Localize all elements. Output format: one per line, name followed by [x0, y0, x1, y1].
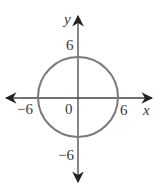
x-axis-label: x: [142, 102, 150, 118]
circle-diagram: y 6 −6 0 6 x −6: [0, 0, 160, 185]
x-pos-tick-label: 6: [120, 102, 128, 118]
x-neg-tick-label: −6: [17, 101, 33, 117]
y-pos-tick-label: 6: [66, 37, 74, 53]
y-axis-label: y: [62, 11, 71, 27]
origin-label: 0: [65, 101, 73, 117]
y-neg-tick-label: −6: [58, 147, 74, 163]
